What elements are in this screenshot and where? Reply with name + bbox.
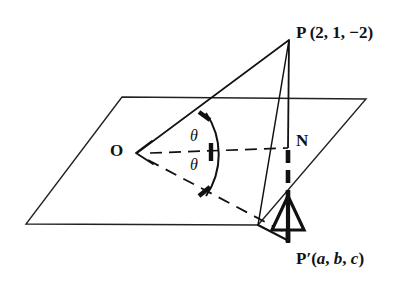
segment-O-to-P xyxy=(137,40,289,153)
segment-P-to-front-edge xyxy=(258,40,289,225)
label-P-prime-paren-close: ) xyxy=(358,249,364,268)
label-point-P: P (2, 1, −2) xyxy=(296,24,373,41)
label-P-prime-name: P′ xyxy=(296,249,311,268)
label-angle-theta-upper: θ xyxy=(190,128,198,144)
label-point-O: O xyxy=(110,142,123,159)
label-angle-theta-lower: θ xyxy=(190,157,198,173)
label-point-P-prime: P′(a, b, c) xyxy=(296,250,364,267)
label-P-prime-sep-1: , xyxy=(325,249,334,268)
label-P-prime-sep-2: , xyxy=(342,249,351,268)
label-point-N: N xyxy=(296,132,308,149)
segment-P-to-N xyxy=(288,40,289,148)
geometry-figure: P (2, 1, −2) N O P′(a, b, c) θ θ xyxy=(0,0,413,292)
